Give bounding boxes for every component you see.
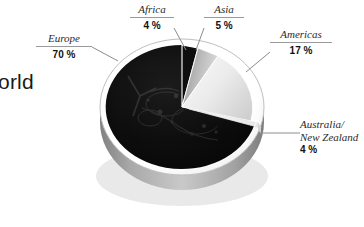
callout-value-africa: 4 % bbox=[130, 19, 174, 32]
callout-label-africa: Africa bbox=[130, 3, 174, 16]
callout-value-asia: 5 % bbox=[204, 19, 244, 32]
callout-label-australia: Australia/ bbox=[300, 118, 364, 131]
callout-value-australia-new-zealand: 4 % bbox=[300, 143, 364, 156]
callout-label-asia: Asia bbox=[204, 3, 244, 16]
callout-value-europe: 70 % bbox=[36, 48, 92, 61]
callout-value-americas: 17 % bbox=[270, 44, 332, 57]
callout-rule-africa bbox=[130, 17, 174, 18]
callout-label-europe: Europe bbox=[36, 32, 92, 45]
callout-rule-asia bbox=[204, 17, 244, 18]
callout-europe: Europe 70 % bbox=[36, 32, 92, 61]
callout-label-new-zealand: New Zealand bbox=[300, 131, 364, 144]
pie-chart-figure: orld bbox=[0, 0, 364, 227]
callout-americas: Americas 17 % bbox=[270, 28, 332, 57]
callout-rule-europe bbox=[36, 46, 92, 47]
callout-africa: Africa 4 % bbox=[130, 3, 174, 32]
callout-asia: Asia 5 % bbox=[204, 3, 244, 32]
callout-australia-new-zealand: Australia/ New Zealand 4 % bbox=[300, 118, 364, 156]
callout-label-americas: Americas bbox=[270, 28, 332, 41]
leader-line-americas bbox=[246, 52, 270, 72]
callout-rule-americas bbox=[270, 42, 332, 43]
leader-line-europe bbox=[92, 47, 118, 61]
